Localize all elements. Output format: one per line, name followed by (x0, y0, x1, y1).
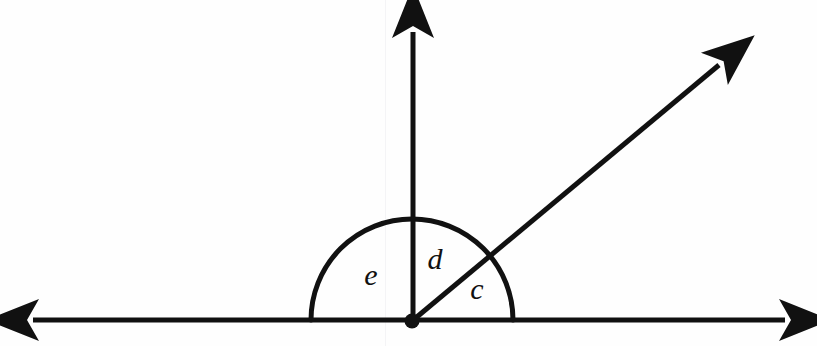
angle-label-c: c (470, 272, 483, 305)
diagram-canvas: e d c (0, 0, 817, 346)
diagonal-ray (412, 65, 719, 321)
angle-label-d: d (428, 242, 444, 275)
origin-vertex-dot (405, 314, 420, 329)
angle-label-e: e (364, 258, 377, 291)
angle-diagram-figure: e d c (0, 0, 817, 346)
